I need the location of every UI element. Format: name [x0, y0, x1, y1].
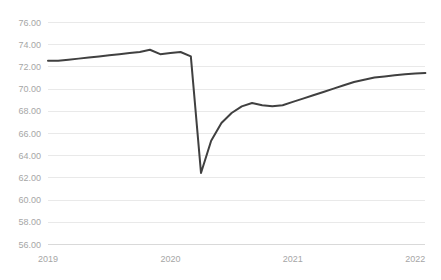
y-axis-tick-labels: 76.0074.0072.0070.0068.0066.0064.0062.00…: [18, 18, 41, 250]
line-chart: 76.0074.0072.0070.0068.0066.0064.0062.00…: [0, 0, 441, 280]
y-axis-tick-label: 70.00: [18, 84, 41, 94]
y-axis-tick-label: 68.00: [18, 106, 41, 116]
y-axis-tick-label: 72.00: [18, 62, 41, 72]
x-axis-tick-label: 2020: [160, 254, 180, 264]
y-axis-tick-label: 64.00: [18, 151, 41, 161]
chart-canvas: 76.0074.0072.0070.0068.0066.0064.0062.00…: [0, 0, 441, 280]
x-axis-tick-labels: 2019202020212022: [38, 254, 425, 264]
y-axis-tick-label: 60.00: [18, 195, 41, 205]
y-axis-tick-label: 76.00: [18, 18, 41, 28]
y-axis-tick-label: 62.00: [18, 173, 41, 183]
x-axis-tick-label: 2022: [405, 254, 425, 264]
x-axis-tick-label: 2019: [38, 254, 58, 264]
y-axis-tick-label: 56.00: [18, 240, 41, 250]
y-axis-tick-label: 66.00: [18, 129, 41, 139]
y-axis-tick-label: 58.00: [18, 217, 41, 227]
x-axis-tick-label: 2021: [283, 254, 303, 264]
y-axis-tick-label: 74.00: [18, 40, 41, 50]
